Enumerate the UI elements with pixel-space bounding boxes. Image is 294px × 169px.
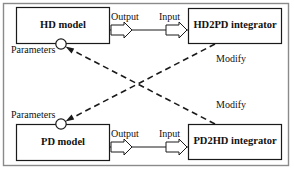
flow-label-output-bottom: Output (111, 129, 139, 139)
modify-label-bottom: Modify (216, 100, 246, 110)
flow-label-output-top: Output (111, 12, 139, 22)
box-label-pd2hd-integrator: PD2HD integrator (188, 136, 282, 147)
arrowhead-to-pd-parameters (65, 115, 74, 122)
diagram-figure: HD model HD2PD integrator PD model PD2HD… (0, 0, 294, 169)
block-arrow-output-bottom (111, 139, 132, 155)
dashed-link-hd2pd-to-pd-model (70, 44, 215, 119)
parameter-node-bottom (56, 119, 66, 129)
block-arrow-input-bottom (166, 139, 187, 155)
flow-label-input-bottom: Input (159, 129, 180, 139)
arrowhead-to-hd-parameters (65, 47, 74, 54)
block-arrow-input-top (166, 22, 187, 38)
dashed-link-pd2hd-to-hd-model (70, 49, 215, 124)
box-label-hd2pd-integrator: HD2PD integrator (188, 20, 282, 31)
parameter-label-top: Parameters (11, 45, 55, 55)
parameter-node-top (56, 39, 66, 49)
box-label-hd-model: HD model (16, 20, 110, 31)
modify-label-top: Modify (216, 54, 246, 64)
block-arrow-output-top (111, 22, 132, 38)
flow-label-input-top: Input (159, 12, 180, 22)
box-label-pd-model: PD model (16, 137, 110, 148)
parameter-label-bottom: Parameters (11, 110, 55, 120)
